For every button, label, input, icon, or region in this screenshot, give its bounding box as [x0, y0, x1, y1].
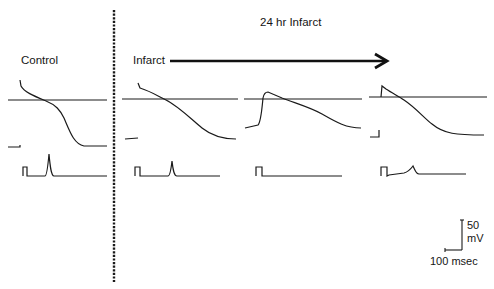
- action-potential-trace: [245, 92, 361, 128]
- action-potential-trace: [381, 86, 484, 135]
- panel-control: [8, 80, 107, 176]
- scale-vertical-unit: mV: [467, 233, 484, 245]
- action-potential-trace: [20, 80, 107, 146]
- scale-horizontal-label: 100 msec: [430, 256, 478, 268]
- progression-arrow: [170, 54, 387, 68]
- electrogram-trace: [23, 154, 107, 176]
- scale-bar: [445, 220, 464, 252]
- figure-canvas: [0, 0, 494, 289]
- scale-vertical-value: 50: [467, 220, 479, 232]
- panel-24hr-early: [244, 92, 362, 176]
- action-potential-trace: [138, 83, 236, 139]
- panel-24hr-late: [369, 86, 487, 176]
- electrogram-trace: [256, 167, 342, 176]
- electrogram-trace: [135, 161, 220, 176]
- panel-infarct: [122, 83, 238, 176]
- panel-label-infarct: Infarct: [133, 55, 165, 67]
- panel-label-control: Control: [21, 55, 58, 67]
- figure-title: 24 hr Infarct: [260, 17, 321, 29]
- resting-potential-mark: [370, 130, 379, 137]
- resting-potential-mark: [8, 145, 20, 147]
- electrogram-trace: [381, 166, 466, 176]
- resting-potential-mark: [125, 138, 138, 139]
